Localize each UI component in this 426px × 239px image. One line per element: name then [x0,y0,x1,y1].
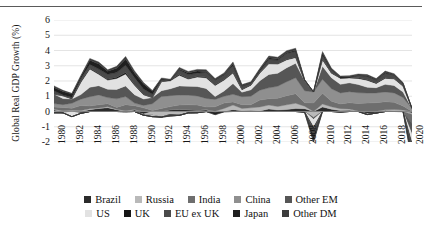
x-tick-label: 1994 [183,125,193,144]
x-tick-label: 1982 [76,125,86,144]
legend-swatch-icon [234,196,241,203]
legend-label: Brazil [95,194,121,205]
legend-item-other-em[interactable]: Other EM [285,194,338,205]
x-tick-label: 1996 [201,125,211,144]
y-tick-label: 0 [28,107,50,117]
legend-label: Other EM [296,194,338,205]
legend-swatch-icon [84,196,91,203]
legend-item-japan[interactable]: Japan [233,208,268,219]
legend-swatch-icon [285,196,292,203]
x-tick-label: 2004 [273,125,283,144]
area-series-india-neg [54,112,412,124]
y-tick-label: -1 [28,122,50,132]
x-tick-label: 1988 [130,125,140,144]
legend-item-brazil[interactable]: Brazil [84,194,121,205]
legend-label: Other DM [293,208,336,219]
legend-label: Russia [146,194,174,205]
x-tick-label: 2000 [237,125,247,144]
legend-item-eu-ex-uk[interactable]: EU ex UK [164,208,219,219]
x-tick-label: 1984 [94,125,104,144]
x-tick-label: 2016 [380,125,390,144]
legend-swatch-icon [135,196,142,203]
x-tick-label: 2008 [309,125,319,144]
stacked-area-canvas [54,20,412,142]
top-divider-rule [0,6,422,7]
legend-row-1: BrazilRussiaIndiaChinaOther EM [77,194,345,205]
legend-swatch-icon [282,210,289,217]
legend-label: Japan [244,208,268,219]
legend-item-india[interactable]: India [188,194,221,205]
x-axis-tick-labels: 1980198219841986198819901992199419961998… [54,144,412,192]
area-series-other-em-neg [54,112,412,135]
legend-swatch-icon [164,210,171,217]
x-tick-label: 2006 [291,125,301,144]
x-tick-label: 1998 [219,125,229,144]
y-axis-title: Global Real GDP Growth (%) [11,13,21,153]
area-series-russia-neg [54,112,412,118]
x-tick-label: 1990 [148,125,158,144]
legend-label: India [199,194,221,205]
legend-label: UK [135,208,150,219]
legend-item-russia[interactable]: Russia [135,194,174,205]
legend-row-2: USUKEU ex UKJapanOther DM [78,208,343,219]
legend-swatch-icon [188,196,195,203]
y-tick-label: 1 [28,91,50,101]
legend-item-china[interactable]: China [234,194,270,205]
y-tick-label: 4 [28,46,50,56]
chart-legend: BrazilRussiaIndiaChinaOther EMUSUKEU ex … [0,194,422,219]
x-tick-label: 1980 [58,125,68,144]
x-tick-label: 1986 [112,125,122,144]
x-tick-label: 2012 [344,125,354,144]
y-axis-tick-labels: 6543210-1-2 [26,20,50,142]
x-tick-label: 2002 [255,125,265,144]
y-tick-label: 5 [28,30,50,40]
y-tick-label: -2 [28,137,50,147]
legend-item-us[interactable]: US [85,208,109,219]
legend-label: US [96,208,109,219]
legend-label: EU ex UK [175,208,219,219]
x-tick-label: 2018 [398,125,408,144]
y-tick-label: 6 [28,15,50,25]
y-tick-label: 3 [28,61,50,71]
x-tick-label: 2020 [416,125,426,144]
x-tick-label: 2014 [362,125,372,144]
legend-label: China [245,194,270,205]
x-tick-label: 2010 [327,125,337,144]
legend-swatch-icon [233,210,240,217]
chart-svg [54,20,412,142]
legend-swatch-icon [124,210,131,217]
legend-item-other-dm[interactable]: Other DM [282,208,336,219]
legend-item-uk[interactable]: UK [124,208,150,219]
plot-area [54,20,412,142]
y-tick-label: 2 [28,76,50,86]
x-tick-label: 1992 [165,125,175,144]
legend-swatch-icon [85,210,92,217]
